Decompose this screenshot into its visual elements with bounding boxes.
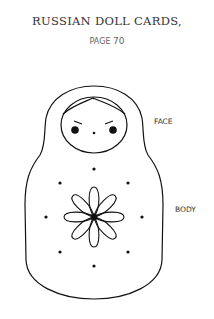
russian-doll-illustration: [0, 0, 214, 319]
face-label: FACE: [154, 117, 173, 126]
left-eyebrow: [74, 121, 82, 124]
hair-line: [63, 98, 125, 114]
left-eye: [71, 126, 79, 134]
nose-dot: [93, 132, 96, 135]
flower: [64, 187, 124, 247]
right-eye: [109, 126, 117, 134]
face-circle: [61, 97, 127, 153]
right-eyebrow: [105, 121, 113, 124]
body-label: BODY: [175, 205, 196, 214]
